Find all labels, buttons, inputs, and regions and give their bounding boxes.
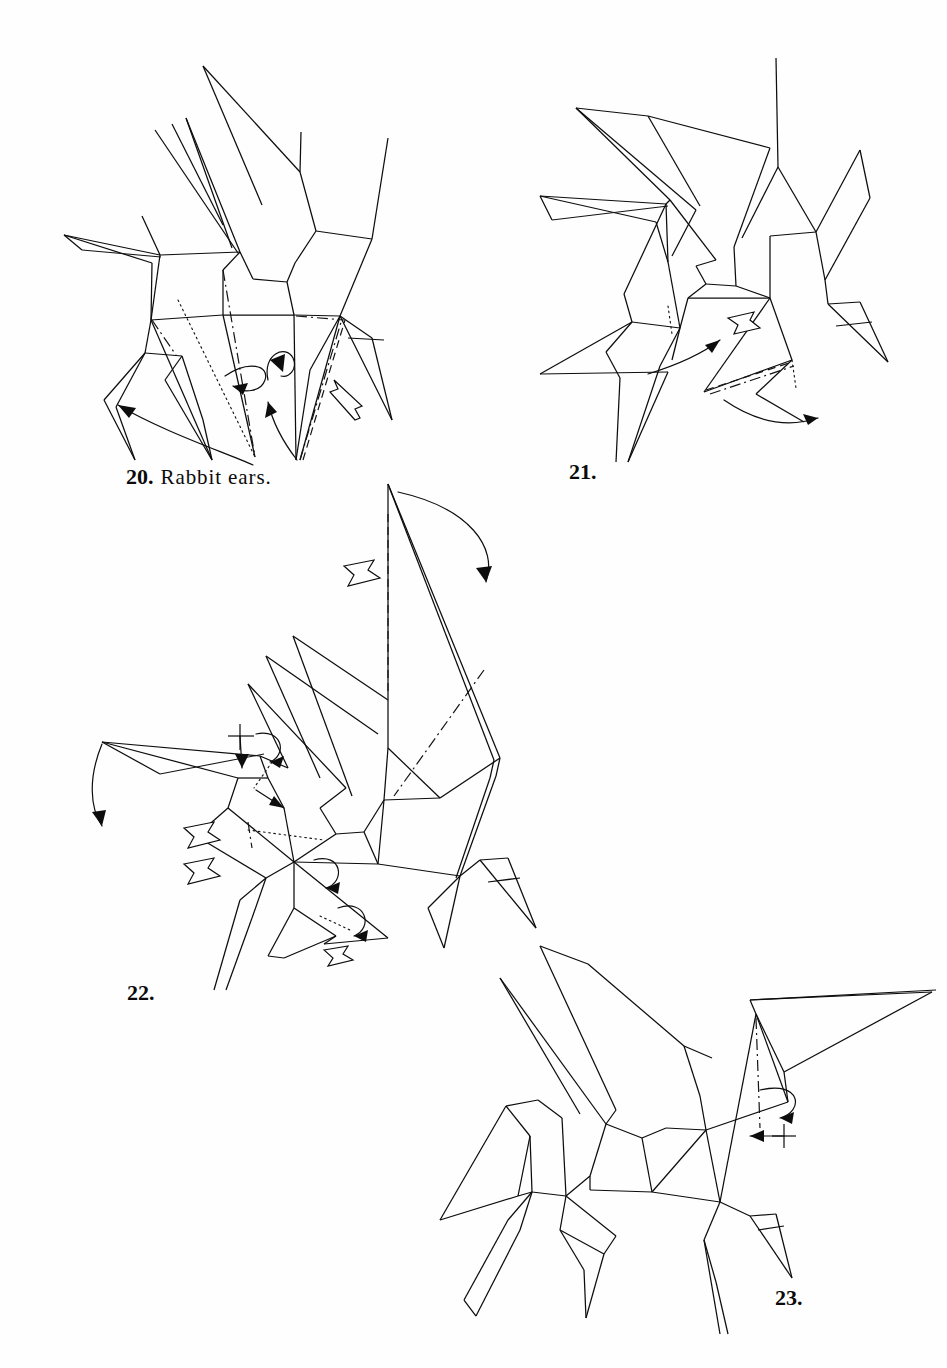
figure-22-caption: 22. (127, 980, 162, 1006)
page-canvas: 20.Rabbit ears. 21. 22. 23. (0, 0, 947, 1368)
figure-21-caption: 21. (569, 459, 604, 485)
figure-23-number: 23. (775, 1285, 803, 1310)
figure-23-caption: 23. (775, 1285, 810, 1311)
fig22-paper-edges (102, 484, 536, 990)
figure-20-number: 20. (126, 464, 154, 489)
fig22-arrows (92, 492, 492, 966)
figure-20-diagram (0, 20, 440, 470)
figure-20-caption-text: Rabbit ears. (161, 465, 272, 489)
figure-23-diagram (420, 930, 940, 1340)
fig21-paper-edges (540, 58, 888, 462)
fig23-paper-edges (440, 946, 936, 1334)
fig20-fold-lines (152, 270, 345, 460)
figure-22-number: 22. (127, 980, 155, 1005)
figure-22-diagram (88, 478, 628, 990)
figure-21-number: 21. (569, 459, 597, 484)
figure-21-diagram (520, 22, 940, 462)
figure-20-caption: 20.Rabbit ears. (126, 464, 272, 490)
fig23-arrows (750, 1088, 796, 1148)
fig21-arrows (648, 312, 818, 425)
fig23-fold-lines (756, 1018, 760, 1128)
